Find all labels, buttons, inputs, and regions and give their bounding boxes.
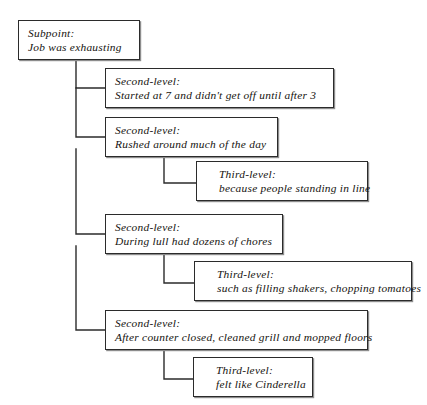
outline-tree-diagram: Subpoint: Job was exhausting Second-leve… — [0, 0, 427, 405]
node-second-level-1-label: Second-level: — [106, 74, 333, 88]
node-second-level-2-body: Rushed around much of the day — [106, 137, 277, 151]
node-second-level-3[interactable]: Second-level: During lull had dozens of … — [105, 214, 283, 254]
node-second-level-4-label: Second-level: — [106, 316, 367, 330]
node-third-level-2[interactable]: Third-level: such as filling shakers, ch… — [194, 261, 412, 301]
connector-trunk-to-second-2 — [76, 88, 105, 137]
node-second-level-4[interactable]: Second-level: After counter closed, clea… — [105, 310, 368, 350]
connector-subpoint-to-second-1 — [76, 60, 105, 88]
node-third-level-1-body: because people standing in line — [197, 181, 367, 195]
node-second-level-3-body: During lull had dozens of chores — [106, 234, 282, 248]
node-second-level-1-body: Started at 7 and didn't get off until af… — [106, 88, 333, 102]
node-second-level-4-body: After counter closed, cleaned grill and … — [106, 330, 367, 344]
node-second-level-2[interactable]: Second-level: Rushed around much of the … — [105, 117, 278, 157]
node-third-level-2-body: such as filling shakers, chopping tomato… — [195, 281, 411, 295]
connector-second-2-to-third-1 — [164, 157, 196, 183]
node-second-level-2-label: Second-level: — [106, 123, 277, 137]
connector-trunk-to-second-3 — [76, 149, 105, 234]
node-third-level-3[interactable]: Third-level: felt like Cinderella — [193, 357, 313, 397]
node-subpoint-label: Subpoint: — [19, 26, 139, 40]
node-subpoint[interactable]: Subpoint: Job was exhausting — [18, 20, 140, 60]
node-third-level-2-label: Third-level: — [195, 267, 411, 281]
node-third-level-1-label: Third-level: — [197, 167, 367, 181]
node-third-level-3-body: felt like Cinderella — [194, 377, 312, 391]
connector-trunk-to-second-4 — [76, 246, 105, 330]
node-second-level-3-label: Second-level: — [106, 220, 282, 234]
node-subpoint-body: Job was exhausting — [19, 40, 139, 54]
connector-second-3-to-third-2 — [164, 254, 194, 283]
connector-second-4-to-third-3 — [164, 350, 193, 379]
node-third-level-1[interactable]: Third-level: because people standing in … — [196, 161, 368, 201]
node-third-level-3-label: Third-level: — [194, 363, 312, 377]
node-second-level-1[interactable]: Second-level: Started at 7 and didn't ge… — [105, 68, 334, 108]
